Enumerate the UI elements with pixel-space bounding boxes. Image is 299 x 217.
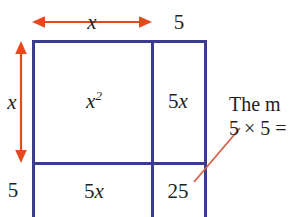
top-dimension-label-x: x xyxy=(87,12,96,33)
callout-text-line-1: The m xyxy=(229,92,281,116)
box-top-edge xyxy=(32,40,207,43)
box-left-edge xyxy=(32,40,35,217)
cell-value-25: 25 xyxy=(168,179,189,203)
diagram-canvas: x 5 x 5 x2 5x 5x 25 The m 5 × 5 = xyxy=(0,0,299,217)
cell-var-x: x xyxy=(179,89,188,113)
box-inner-horizontal-divider xyxy=(32,162,207,165)
cell-coefficient-5: 5 xyxy=(84,179,95,203)
cell-label-5x-top-right: 5x xyxy=(168,91,188,112)
left-dimension-label-5: 5 xyxy=(8,180,19,201)
cell-label-x-squared: x2 xyxy=(86,91,102,112)
box-inner-vertical-divider xyxy=(151,40,154,217)
cell-var-x: x xyxy=(86,89,95,113)
cell-var-x: x xyxy=(95,179,104,203)
cell-label-25: 25 xyxy=(168,181,189,202)
cell-exponent-2: 2 xyxy=(95,88,102,103)
cell-label-5x-bottom-left: 5x xyxy=(84,181,104,202)
top-dimension-label-5: 5 xyxy=(174,12,185,33)
callout-text-line-2: 5 × 5 = xyxy=(229,116,287,140)
left-dimension-label-x: x xyxy=(7,92,16,113)
cell-coefficient-5: 5 xyxy=(168,89,179,113)
